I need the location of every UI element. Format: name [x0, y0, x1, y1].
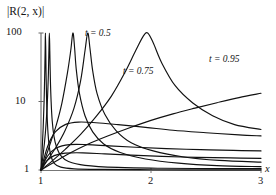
curve-label-t05: t = 0.5	[85, 29, 111, 39]
curve-label-t095: t = 0.95	[209, 55, 239, 65]
x-tick-label-3: 3	[258, 176, 263, 187]
x-tick-label-1: 1	[38, 176, 43, 187]
chart-canvas	[0, 0, 276, 195]
curve-5	[41, 93, 261, 170]
figure-container: |R(2, x)| 100 10 1 1 2 3 x t = 0.5 t = 0…	[0, 0, 276, 195]
y-tick-label-100: 100	[6, 27, 22, 38]
x-tick-label-2: 2	[148, 176, 153, 187]
y-tick-label-10: 10	[15, 96, 26, 107]
y-tick-label-1: 1	[24, 164, 29, 175]
curve-label-t075: t = 0.75	[123, 67, 153, 77]
x-axis-title: x	[265, 164, 270, 175]
y-axis-title: |R(2, x)|	[7, 6, 44, 18]
